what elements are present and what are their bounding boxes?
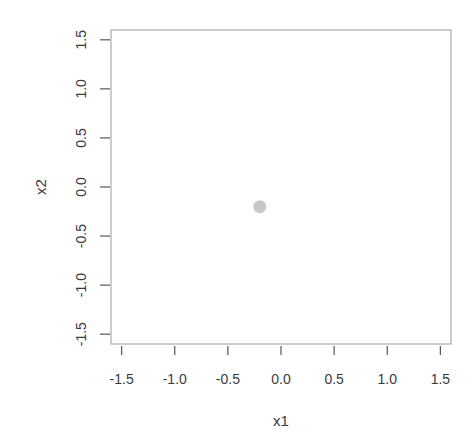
x-axis-title: x1	[273, 412, 289, 429]
y-tick-label: -1.5	[73, 322, 89, 346]
y-tick-label: -1.0	[73, 273, 89, 297]
y-tick-label: 1.5	[73, 30, 89, 50]
x-tick-label: 1.0	[378, 371, 398, 387]
x-tick-label: -1.5	[110, 371, 134, 387]
data-point	[253, 200, 266, 213]
x-tick-label: -0.5	[216, 371, 240, 387]
y-tick-label: 0.5	[73, 128, 89, 148]
plot-frame	[111, 30, 451, 344]
x-tick-label: 0.0	[271, 371, 291, 387]
x-axis: -1.5-1.0-0.50.00.51.01.5	[110, 346, 451, 387]
y-tick-label: 1.0	[73, 79, 89, 99]
data-points	[253, 200, 266, 213]
x-tick-label: -1.0	[163, 371, 187, 387]
y-axis-title: x2	[32, 179, 49, 195]
y-tick-label: -0.5	[73, 224, 89, 248]
x-tick-label: 0.5	[324, 371, 344, 387]
x-tick-label: 1.5	[431, 371, 451, 387]
scatter-plot: -1.5-1.0-0.50.00.51.01.5 -1.5-1.0-0.50.0…	[0, 0, 476, 442]
y-tick-label: 0.0	[73, 177, 89, 197]
y-axis: -1.5-1.0-0.50.00.51.01.5	[73, 30, 110, 346]
